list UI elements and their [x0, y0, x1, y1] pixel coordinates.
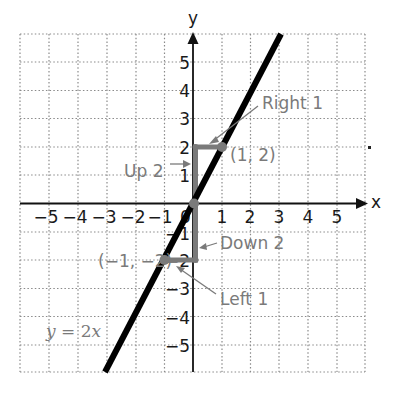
x-axis-label: x [371, 192, 381, 212]
right-1-label: Right 1 [262, 93, 323, 113]
x-tick: 3 [274, 207, 285, 227]
x-tick: −2 [120, 207, 145, 227]
stray-dot [368, 146, 371, 149]
y-axis-label: y [188, 8, 198, 28]
point-origin [189, 199, 199, 209]
y-tick: 2 [179, 138, 190, 158]
left-1-label: Left 1 [220, 289, 268, 309]
point-label-1-2: (1, 2) [230, 145, 276, 165]
equation-x: x [91, 321, 101, 341]
down-2-arrowhead-icon [199, 243, 207, 250]
point-1-2 [217, 142, 227, 152]
y-tick: −5 [165, 336, 190, 356]
x-tick: 1 [217, 207, 228, 227]
x-axis-arrow-icon [356, 198, 368, 209]
up-2-label: Up 2 [124, 161, 163, 181]
x-tick: −4 [62, 207, 87, 227]
point-label-neg1-neg2: (−1, −2) [98, 251, 172, 271]
y-tick: 4 [179, 81, 190, 101]
point-0-2 [193, 144, 199, 150]
equation-y: y [45, 321, 56, 341]
y-axis-arrow-icon [188, 32, 199, 44]
equation-mid: = 2 [56, 321, 92, 341]
x-tick: 4 [303, 207, 314, 227]
x-tick: 5 [332, 207, 343, 227]
y-tick-labels: 5 4 3 2 1 −1 −2 −3 −4 −5 [165, 53, 190, 356]
y-tick: 3 [179, 109, 190, 129]
down-2-label: Down 2 [220, 233, 284, 253]
y-tick: −3 [165, 279, 190, 299]
y-tick: 5 [179, 53, 190, 73]
equation-label: y = 2x [45, 321, 101, 341]
y-tick: 1 [179, 166, 190, 186]
x-tick: −3 [91, 207, 116, 227]
right-1-arrow [213, 106, 258, 141]
line-graph-y-equals-2x: x y −5 −4 −3 −2 −1 1 2 3 4 5 0 5 4 3 2 1… [0, 0, 397, 396]
x-tick: −5 [33, 207, 58, 227]
x-tick: 2 [245, 207, 256, 227]
point-0-neg2 [193, 257, 199, 263]
y-tick: −4 [165, 308, 190, 328]
